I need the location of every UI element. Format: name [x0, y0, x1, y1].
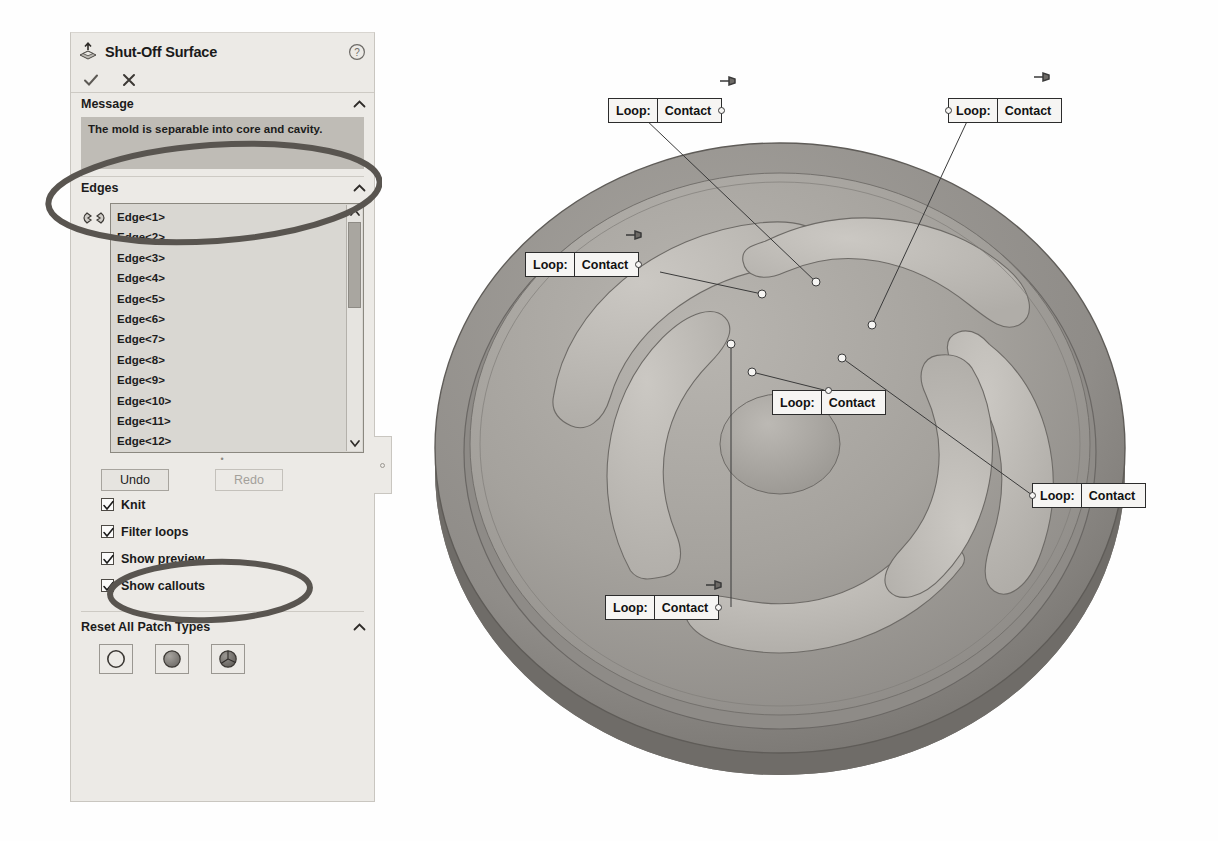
checkbox-row-filter-loops[interactable]: Filter loops: [71, 518, 374, 545]
list-item[interactable]: Edge<3>: [117, 248, 363, 268]
contact-patch-button[interactable]: [155, 644, 189, 674]
svg-text:?: ?: [354, 47, 360, 58]
panel-title-row: Shut-Off Surface ?: [71, 37, 374, 67]
undo-redo-row: Undo Redo: [71, 465, 374, 491]
list-item[interactable]: Edge<10>: [117, 391, 363, 411]
callout-key: Loop:: [773, 391, 822, 414]
list-item[interactable]: Edge<7>: [117, 329, 363, 349]
callout-value[interactable]: Contact: [575, 253, 639, 276]
callout-value[interactable]: Contact: [655, 596, 719, 619]
callout-key: Loop:: [609, 99, 658, 122]
callout-key: Loop:: [949, 99, 998, 122]
callout-key: Loop:: [606, 596, 655, 619]
panel-confirm-row: [71, 67, 374, 93]
pin-icon[interactable]: [1032, 70, 1052, 84]
callout-anchor-icon[interactable]: [945, 107, 952, 114]
callout-loop-5[interactable]: Loop: Contact: [1032, 483, 1146, 508]
page-title: Shut-Off Surface: [105, 44, 348, 60]
callout-leader-lines: [392, 0, 1218, 841]
section-header-reset-patch-types[interactable]: Reset All Patch Types: [71, 616, 374, 638]
checkbox-label: Show callouts: [121, 579, 205, 593]
callout-value[interactable]: Contact: [822, 391, 886, 414]
panel-resize-tab[interactable]: [374, 436, 392, 494]
chevron-up-icon[interactable]: [353, 99, 366, 109]
sphere-with-seams-icon: [217, 648, 239, 670]
edges-listbox[interactable]: Edge<1> Edge<2> Edge<3> Edge<4> Edge<5> …: [110, 203, 364, 453]
chevron-up-icon[interactable]: [348, 205, 362, 220]
pin-icon[interactable]: [718, 74, 738, 88]
checkbox-show-preview[interactable]: [101, 552, 114, 565]
callout-value[interactable]: Contact: [998, 99, 1062, 122]
checkbox-knit[interactable]: [101, 498, 114, 511]
edge-selection-icon: [81, 207, 107, 229]
scrollbar-thumb[interactable]: [348, 222, 361, 308]
shut-off-surface-icon: [77, 42, 99, 62]
listbox-resize-handle[interactable]: •: [71, 453, 374, 465]
chevron-up-icon[interactable]: [353, 622, 366, 632]
no-fill-patch-button[interactable]: [99, 644, 133, 674]
checkmark-icon: [102, 499, 115, 512]
checkmark-icon: [102, 580, 115, 593]
callout-loop-1[interactable]: Loop: Contact: [608, 98, 722, 123]
section-title: Reset All Patch Types: [81, 620, 353, 634]
list-item[interactable]: Edge<2>: [117, 227, 363, 247]
checkbox-filter-loops[interactable]: [101, 525, 114, 538]
checkbox-row-knit[interactable]: Knit: [71, 491, 374, 518]
list-item[interactable]: Edge<4>: [117, 268, 363, 288]
graphics-area[interactable]: Loop: Contact Loop: Contact Loop: Contac…: [392, 0, 1218, 841]
callout-loop-4[interactable]: Loop: Contact: [772, 390, 886, 415]
help-icon[interactable]: ?: [348, 43, 366, 61]
section-title: Message: [81, 97, 353, 111]
list-item[interactable]: Edge<5>: [117, 289, 363, 309]
checkmark-icon: [102, 526, 115, 539]
callout-value[interactable]: Contact: [658, 99, 722, 122]
list-item[interactable]: Edge<8>: [117, 350, 363, 370]
screenshot-root: Loop: Contact Loop: Contact Loop: Contac…: [0, 0, 1218, 841]
checkbox-row-show-callouts[interactable]: Show callouts: [71, 572, 374, 599]
list-item[interactable]: Edge<11>: [117, 411, 363, 431]
checkbox-label: Show preview: [121, 552, 204, 566]
chevron-up-icon[interactable]: [353, 183, 366, 193]
callout-loop-6[interactable]: Loop: Contact: [605, 595, 719, 620]
scrollbar-track[interactable]: [347, 220, 362, 436]
x-icon[interactable]: [121, 72, 137, 88]
callout-loop-2[interactable]: Loop: Contact: [948, 98, 1062, 123]
callout-anchor-icon[interactable]: [718, 107, 725, 114]
circle-outline-icon: [105, 648, 127, 670]
list-item[interactable]: Edge<9>: [117, 370, 363, 390]
tab-dot-icon: [380, 463, 385, 468]
callout-anchor-icon[interactable]: [715, 604, 722, 611]
callout-key: Loop:: [526, 253, 575, 276]
section-title: Edges: [81, 181, 353, 195]
pin-icon[interactable]: [624, 228, 644, 242]
checkbox-label: Knit: [121, 498, 145, 512]
listbox-scrollbar[interactable]: [346, 205, 362, 451]
callout-anchor-icon[interactable]: [1029, 492, 1036, 499]
checkmark-icon: [102, 553, 115, 566]
patch-type-buttons: [71, 638, 374, 674]
callout-anchor-icon[interactable]: [635, 261, 642, 268]
callout-loop-3[interactable]: Loop: Contact: [525, 252, 639, 277]
section-header-message[interactable]: Message: [71, 93, 374, 115]
message-text: The mold is separable into core and cavi…: [81, 117, 364, 169]
checkbox-show-callouts[interactable]: [101, 579, 114, 592]
callout-value[interactable]: Contact: [1082, 484, 1146, 507]
checkbox-label: Filter loops: [121, 525, 188, 539]
list-item[interactable]: Edge<1>: [117, 207, 363, 227]
edges-selection-row: Edge<1> Edge<2> Edge<3> Edge<4> Edge<5> …: [71, 199, 374, 453]
chevron-down-icon[interactable]: [348, 436, 362, 451]
list-item[interactable]: Edge<6>: [117, 309, 363, 329]
pin-icon[interactable]: [704, 578, 724, 592]
checkbox-row-show-preview[interactable]: Show preview: [71, 545, 374, 572]
tangent-patch-button[interactable]: [211, 644, 245, 674]
callout-key: Loop:: [1033, 484, 1082, 507]
redo-button: Redo: [215, 469, 283, 491]
undo-button[interactable]: Undo: [101, 469, 169, 491]
list-item[interactable]: Edge<12>: [117, 431, 363, 451]
section-header-edges[interactable]: Edges: [71, 177, 374, 199]
divider: [81, 611, 364, 612]
shaded-sphere-icon: [161, 648, 183, 670]
checkmark-icon[interactable]: [83, 72, 99, 88]
property-manager-panel: Shut-Off Surface ? Message The mold is s…: [70, 32, 375, 802]
edges-list: Edge<1> Edge<2> Edge<3> Edge<4> Edge<5> …: [117, 207, 363, 452]
